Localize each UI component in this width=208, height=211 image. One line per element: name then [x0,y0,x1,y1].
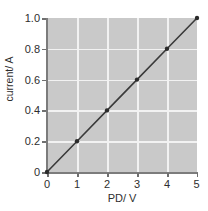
y-axis-tick-label: 1.0 [14,13,40,24]
y-axis-tick [42,80,46,82]
x-axis-tick [47,173,49,177]
y-axis-tick-label: 0.2 [14,136,40,147]
x-axis-tick [167,173,169,177]
x-axis-tick-label: 2 [97,179,117,190]
x-axis-tick-label: 0 [37,179,57,190]
y-axis-title: current/ A [3,49,15,109]
y-axis-tick [42,172,46,174]
chart-container: 1.0 0.8 0.6 0.4 0.2 0 0 1 2 3 4 5 curren… [0,0,208,211]
x-axis-tick-label: 3 [127,179,147,190]
y-axis-tick-label: 0 [14,167,40,178]
y-axis-tick-label: 0.8 [14,44,40,55]
gridline-vertical [167,18,169,172]
gridline-horizontal [47,80,197,82]
y-axis-tick [42,18,46,20]
gridline-horizontal [47,141,197,143]
x-axis-tick [107,173,109,177]
y-axis-line [46,18,48,173]
gridline-vertical [77,18,79,172]
y-axis-tick [42,141,46,143]
x-axis-tick [197,173,199,177]
y-axis-tick-label: 0.6 [14,75,40,86]
y-axis-tick [42,110,46,112]
y-axis-tick [42,49,46,51]
x-axis-title: PD/ V [47,192,197,204]
gridline-horizontal [47,110,197,112]
y-axis-tick-label: 0.4 [14,105,40,116]
x-axis-tick-label: 1 [67,179,87,190]
plot-area [47,18,197,172]
x-axis-tick [137,173,139,177]
x-axis-tick-label: 5 [187,179,207,190]
x-axis-tick-label: 4 [157,179,177,190]
gridline-vertical [137,18,139,172]
x-axis-tick [77,173,79,177]
x-axis-line [46,172,198,174]
gridline-horizontal [47,49,197,51]
gridline-vertical [107,18,109,172]
